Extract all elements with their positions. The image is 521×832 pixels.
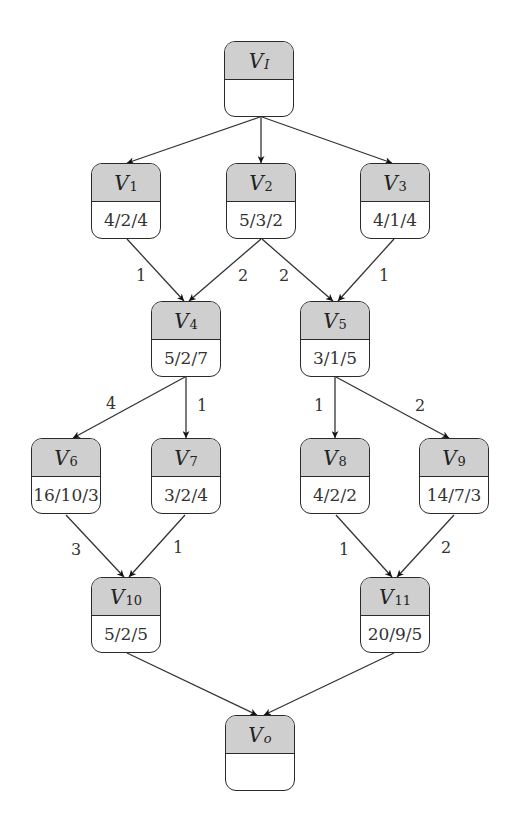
edge-v5-v9 — [336, 377, 449, 438]
node-label: V — [323, 446, 337, 470]
edge-v2-v5 — [262, 239, 333, 301]
edge-weight-label: 2 — [415, 396, 425, 415]
node-label: V — [110, 585, 124, 609]
edge-v10-vo — [127, 653, 257, 715]
node-label: V — [174, 446, 188, 470]
node-value: 4/2/4 — [92, 202, 160, 238]
edge-vi-v1 — [127, 117, 260, 163]
node-subscript: 8 — [339, 454, 347, 469]
node-subscript: 1 — [130, 179, 138, 194]
node-label: V — [114, 171, 128, 195]
node-value: 4/2/2 — [301, 477, 369, 513]
node-v10: V105/2/5 — [91, 577, 161, 653]
node-title: V11 — [361, 578, 429, 616]
edge-weight-label: 1 — [339, 540, 349, 559]
node-title: VI — [225, 42, 293, 80]
node-value: 3/2/4 — [152, 477, 220, 513]
node-value: 5/2/5 — [92, 616, 160, 652]
node-label: V — [174, 309, 188, 333]
node-subscript: 6 — [70, 454, 78, 469]
node-label: V — [249, 49, 263, 73]
node-value: 5/3/2 — [227, 202, 295, 238]
node-v8: V84/2/2 — [300, 438, 370, 514]
node-v7: V73/2/4 — [151, 438, 221, 514]
node-subscript: 4 — [190, 317, 198, 332]
node-label: V — [442, 446, 456, 470]
node-value: 20/9/5 — [361, 616, 429, 652]
node-value: 16/10/3 — [32, 477, 100, 513]
node-title: V3 — [361, 164, 429, 202]
node-v5: V53/1/5 — [300, 301, 370, 377]
node-subscript: 11 — [394, 593, 411, 608]
node-value: 14/7/3 — [420, 477, 488, 513]
node-subscript: 2 — [265, 179, 273, 194]
edge-weight-label: 1 — [173, 538, 183, 557]
edge-weight-label: 1 — [197, 396, 207, 415]
edge-weight-label: 1 — [314, 396, 324, 415]
node-title: V1 — [92, 164, 160, 202]
edge-v2-v4 — [189, 239, 261, 301]
node-title: V5 — [301, 302, 369, 340]
edge-weight-label: 2 — [279, 266, 289, 285]
node-subscript: 10 — [125, 593, 142, 608]
node-value — [226, 754, 294, 790]
node-title: V4 — [152, 302, 220, 340]
edge-weight-label: 4 — [106, 394, 116, 413]
node-vo: Vo — [225, 715, 295, 791]
node-vi: VI — [224, 41, 294, 117]
node-subscript: 7 — [190, 454, 198, 469]
edge-weight-label: 2 — [238, 266, 248, 285]
edge-vi-v3 — [262, 117, 392, 163]
node-label: V — [323, 309, 337, 333]
node-title: V9 — [420, 439, 488, 477]
node-v6: V616/10/3 — [31, 438, 101, 514]
edge-weight-label: 2 — [441, 538, 451, 557]
node-label: V — [383, 171, 397, 195]
node-title: V6 — [32, 439, 100, 477]
edge-v11-vo — [264, 653, 394, 715]
node-subscript: 3 — [399, 179, 407, 194]
node-subscript: I — [264, 57, 269, 72]
node-value: 4/1/4 — [361, 202, 429, 238]
graph-edges — [0, 0, 521, 832]
node-title: V8 — [301, 439, 369, 477]
edge-weight-label: 1 — [136, 266, 146, 285]
node-title: V2 — [227, 164, 295, 202]
node-v2: V25/3/2 — [226, 163, 296, 239]
node-subscript: 5 — [339, 317, 347, 332]
node-label: V — [249, 171, 263, 195]
node-v4: V45/2/7 — [151, 301, 221, 377]
node-title: V10 — [92, 578, 160, 616]
node-value — [225, 80, 293, 116]
node-value: 3/1/5 — [301, 340, 369, 376]
node-title: Vo — [226, 716, 294, 754]
node-v11: V1120/9/5 — [360, 577, 430, 653]
node-v9: V914/7/3 — [419, 438, 489, 514]
node-v1: V14/2/4 — [91, 163, 161, 239]
node-v3: V34/1/4 — [360, 163, 430, 239]
node-title: V7 — [152, 439, 220, 477]
node-label: V — [379, 585, 393, 609]
node-subscript: o — [264, 731, 272, 746]
edge-weight-label: 3 — [71, 540, 81, 559]
node-subscript: 9 — [458, 454, 466, 469]
node-value: 5/2/7 — [152, 340, 220, 376]
node-label: V — [248, 723, 262, 747]
edge-weight-label: 1 — [379, 266, 389, 285]
edge-v4-v6 — [73, 377, 185, 438]
node-label: V — [54, 446, 68, 470]
